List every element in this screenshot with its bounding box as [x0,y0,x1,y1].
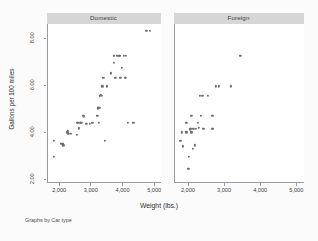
x-tick-label: 4,000 [253,188,267,194]
data-point [182,145,184,147]
data-point [218,85,220,87]
data-point [80,122,82,124]
data-point [188,156,190,158]
data-point [190,115,192,117]
x-tick-mark [59,183,60,186]
y-tick-mark [44,179,47,180]
data-point [91,122,93,124]
plot-panel-foreign [174,24,304,183]
data-point [200,115,202,117]
data-point [110,72,112,74]
y-tick-label: 6.00 [30,77,36,93]
data-point [83,116,85,118]
x-tick-mark [154,183,155,186]
y-tick-mark [44,132,47,133]
panel-strip-foreign: Foreign [174,13,304,24]
data-point [78,126,80,128]
x-tick-label: 2,000 [181,188,195,194]
data-point [100,95,102,97]
x-tick-mark [296,183,297,186]
y-tick-label: 4.00 [30,124,36,140]
panel-title-domestic: Domestic [90,15,117,21]
data-point [53,139,55,141]
stata-scatter-figure: Domestic Foreign 2.004.006.008.002,0003,… [0,0,318,241]
data-point [121,66,123,68]
data-point [119,55,121,57]
data-point [101,85,103,87]
data-point [239,55,241,57]
data-point [202,128,204,130]
x-tick-label: 2,000 [52,188,66,194]
x-tick-label: 3,000 [84,188,98,194]
panel-strip-domestic: Domestic [47,13,161,24]
x-tick-mark [260,183,261,186]
data-point [187,168,189,170]
data-point [125,55,127,57]
data-point [194,144,196,146]
data-point [145,30,147,32]
panel-title-foreign: Foreign [227,15,249,21]
data-point [190,131,192,133]
data-point [230,85,232,87]
x-tick-mark [188,183,189,186]
plot-panel-domestic [47,24,161,183]
x-tick-mark [224,183,225,186]
data-point [181,131,183,133]
y-tick-mark [44,38,47,39]
data-point [85,123,87,125]
data-point [88,123,90,125]
data-point [179,139,181,141]
data-point [133,122,135,124]
x-tick-mark [122,183,123,186]
data-point [191,148,193,150]
data-point [104,139,106,141]
data-point [198,126,200,128]
data-point [106,85,108,87]
x-tick-label: 4,000 [116,188,130,194]
data-point [69,132,71,134]
data-point [113,62,115,64]
data-point [126,122,128,124]
data-point [75,134,77,136]
data-point [62,144,64,146]
y-tick-label: 2.00 [30,171,36,187]
data-point [119,77,121,79]
x-axis-title: Weight (lbs.) [0,203,318,210]
data-point [185,131,187,133]
x-tick-label: 5,000 [147,188,161,194]
data-point [195,128,197,130]
data-point [124,77,126,79]
y-tick-mark [44,85,47,86]
data-point [114,77,116,79]
y-tick-label: 8.00 [30,30,36,46]
figure-note: Graphs by Car type [25,218,72,223]
data-point [196,122,198,124]
x-tick-label: 5,000 [289,188,303,194]
data-point [211,115,213,117]
data-point [201,95,203,97]
data-point [185,122,187,124]
data-point [96,115,98,117]
data-point [102,77,104,79]
data-point [149,30,151,32]
data-point [98,106,100,108]
data-point [98,122,100,124]
x-tick-label: 3,000 [217,188,231,194]
x-tick-mark [90,183,91,186]
data-point [212,128,214,130]
y-axis-title: Gallons per 100 miles [9,54,15,144]
data-point [53,156,55,158]
data-point [207,95,209,97]
